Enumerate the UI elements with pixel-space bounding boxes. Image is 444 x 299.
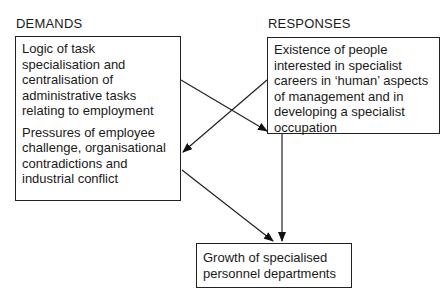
arrows-layer <box>0 0 444 299</box>
arrow-demands-to-responses <box>181 80 267 131</box>
arrow-demands-to-outcome <box>182 170 273 241</box>
arrow-responses-to-demands <box>183 80 267 152</box>
